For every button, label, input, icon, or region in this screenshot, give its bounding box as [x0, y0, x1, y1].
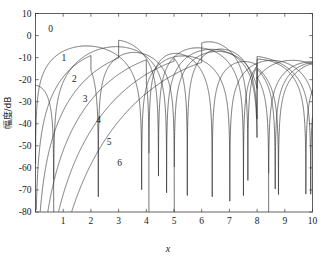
plot-canvas: 12345678910 100-10-20-30-40-50-60-70-80 … [0, 0, 322, 259]
y-tick-label: -30 [19, 97, 32, 107]
y-tick-label: -50 [19, 141, 32, 151]
curve-label-1: 1 [61, 53, 66, 63]
x-tick-label: 10 [308, 216, 318, 226]
x-tick-label: 5 [172, 216, 177, 226]
curve-label-2: 2 [72, 74, 77, 84]
curve-label-0: 0 [48, 24, 53, 34]
y-tick-label: -70 [19, 185, 32, 195]
curve-label-4: 4 [96, 115, 101, 125]
x-tick-label: 1 [61, 216, 66, 226]
y-tick-label: 0 [27, 31, 32, 41]
curve-label-5: 5 [107, 137, 112, 147]
y-tick-label: -40 [19, 119, 32, 129]
x-tick-label: 4 [144, 216, 149, 226]
x-tick-label: 3 [116, 216, 121, 226]
y-tick-label: -10 [19, 53, 32, 63]
curve-label-6: 6 [117, 158, 122, 168]
x-tick-label: 8 [255, 216, 260, 226]
x-axis-label: x [165, 243, 171, 254]
x-tick-label: 9 [282, 216, 287, 226]
x-tick-label: 7 [227, 216, 232, 226]
y-tick-label: -20 [19, 75, 32, 85]
y-tick-label: 10 [22, 9, 32, 19]
y-axis-label: 幅度/dB [2, 97, 13, 130]
x-tick-label: 2 [89, 216, 94, 226]
y-tick-label: -60 [19, 163, 32, 173]
y-tick-label: -80 [19, 207, 32, 217]
x-tick-label: 6 [199, 216, 204, 226]
bessel-db-plot-figure: 12345678910 100-10-20-30-40-50-60-70-80 … [0, 0, 322, 259]
figure-background [0, 0, 322, 259]
curve-label-3: 3 [83, 94, 88, 104]
